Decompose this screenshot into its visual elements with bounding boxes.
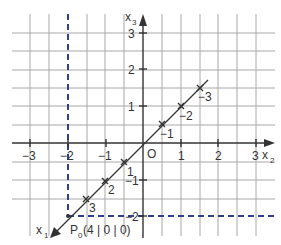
x2-arrow-icon	[264, 139, 275, 147]
x3-axis	[139, 22, 147, 238]
x3-tick-label: −2	[125, 210, 139, 224]
x1-tick-label: −2	[179, 109, 193, 123]
point-p0-marker	[66, 214, 70, 218]
x2-tick-label: −1	[98, 149, 112, 163]
x3-axis-label: x	[125, 10, 131, 24]
x2-axis-label: x	[262, 148, 268, 162]
x3-arrow-icon	[139, 14, 147, 26]
coordinate-diagram: −3 −2 −1 1 2 3 x 2 3 2 1 −1 −2 x 3 1 2 3…	[0, 0, 281, 245]
x1-tick-label: 2	[108, 183, 115, 197]
x1-tick-label: 1	[127, 165, 134, 179]
diagram-canvas: −3 −2 −1 1 2 3 x 2 3 2 1 −1 −2 x 3 1 2 3…	[0, 0, 281, 245]
x3-axis-subscript: 3	[132, 18, 137, 27]
x1-tick-label: −1	[160, 127, 174, 141]
x2-tick-label: −2	[60, 149, 74, 163]
x2-tick-label: 2	[215, 149, 222, 163]
x1-tick-label: −3	[198, 90, 212, 104]
x3-tick-label: 3	[128, 27, 135, 41]
point-p0-name: P	[70, 223, 78, 237]
x2-axis-subscript: 2	[270, 156, 275, 165]
origin-label: O	[147, 147, 156, 161]
x2-tick-label: 3	[252, 149, 259, 163]
x2-axis	[12, 139, 268, 147]
x2-tick-label: 1	[178, 149, 185, 163]
x2-tick-label: −3	[22, 149, 36, 163]
x3-tick-label: 1	[128, 100, 135, 114]
point-p0-coords: (4 | 0 | 0)	[83, 223, 131, 237]
x1-axis-label: x	[36, 223, 42, 237]
x1-axis-subscript: 1	[44, 231, 49, 240]
x3-tick-label: 2	[128, 63, 135, 77]
x1-tick-label: 3	[89, 201, 96, 215]
